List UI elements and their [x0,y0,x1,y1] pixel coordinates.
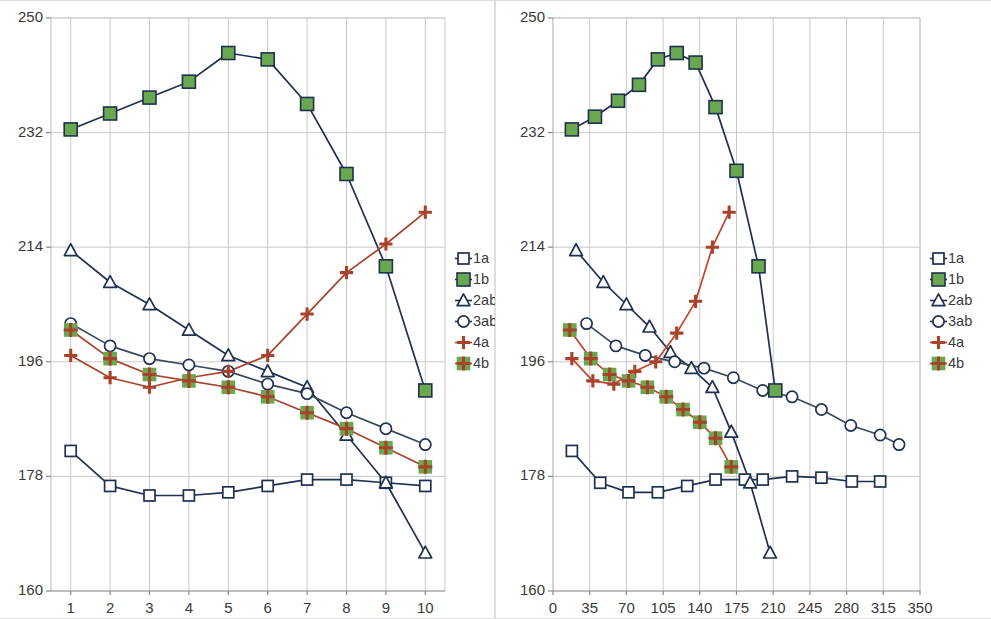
y-axis-tick-label: 160 [499,581,545,598]
legend-item-1a[interactable]: 1a [930,249,972,268]
chart-panel-right: 1a1b2ab3ab4a4b 1601781962142322500357010… [495,0,991,619]
legend-marker-open-square-icon [455,250,472,267]
chart-figure: 1a1b2ab3ab4a4b 1601781962142322501234567… [0,0,991,619]
legend-label: 4a [948,335,964,350]
legend-label: 3ab [473,314,497,329]
legend-label: 2ab [473,293,497,308]
y-axis-tick-label: 178 [499,466,545,483]
legend-item-4b[interactable]: 4b [930,354,972,373]
y-axis-tick-label: 214 [0,237,43,254]
legend-marker-plus-icon [455,334,472,351]
y-axis-tick-label: 232 [499,123,545,140]
legend-item-4a[interactable]: 4a [930,333,972,352]
legend-label: 1b [948,272,964,287]
left-chart-plot [0,1,495,619]
x-axis-tick-label: 10 [400,599,450,616]
legend-marker-open-triangle-icon [455,292,472,309]
y-axis-tick-label: 232 [0,123,43,140]
legend-marker-open-circle-icon [455,313,472,330]
legend-marker-filled-square-icon [930,271,947,288]
legend-label: 4a [473,335,489,350]
legend-marker-open-circle-icon [930,313,947,330]
legend-item-4b[interactable]: 4b [455,354,497,373]
legend-label: 4b [473,356,489,371]
legend-item-2ab[interactable]: 2ab [455,291,497,310]
chart-panel-left: 1a1b2ab3ab4a4b 1601781962142322501234567… [0,0,495,619]
left-chart-legend: 1a1b2ab3ab4a4b [455,249,497,373]
legend-marker-open-triangle-icon [930,292,947,309]
legend-label: 1b [473,272,489,287]
y-axis-tick-label: 250 [0,8,43,25]
y-axis-tick-label: 160 [0,581,43,598]
right-chart-legend: 1a1b2ab3ab4a4b [930,249,972,373]
legend-marker-filled-square-icon [455,271,472,288]
legend-marker-open-square-icon [930,250,947,267]
legend-item-3ab[interactable]: 3ab [930,312,972,331]
legend-marker-plus-icon [930,334,947,351]
y-axis-tick-label: 178 [0,466,43,483]
legend-label: 2ab [948,293,972,308]
legend-marker-plus-on-green-square-icon [455,355,472,372]
y-axis-tick-label: 196 [499,352,545,369]
y-axis-tick-label: 214 [499,237,545,254]
y-axis-tick-label: 196 [0,352,43,369]
legend-item-3ab[interactable]: 3ab [455,312,497,331]
legend-label: 4b [948,356,964,371]
legend-item-1b[interactable]: 1b [930,270,972,289]
legend-item-2ab[interactable]: 2ab [930,291,972,310]
y-axis-tick-label: 250 [499,8,545,25]
legend-marker-plus-on-green-square-icon [930,355,947,372]
legend-label: 1a [948,251,964,266]
x-axis-tick-label: 350 [895,599,945,616]
right-chart-plot [496,1,991,619]
legend-label: 3ab [948,314,972,329]
legend-item-1a[interactable]: 1a [455,249,497,268]
legend-item-1b[interactable]: 1b [455,270,497,289]
legend-item-4a[interactable]: 4a [455,333,497,352]
legend-label: 1a [473,251,489,266]
